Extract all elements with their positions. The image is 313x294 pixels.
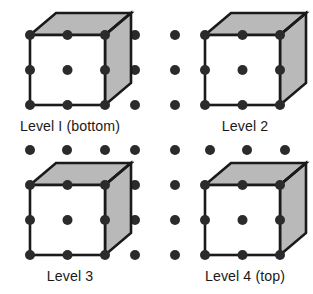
lattice-dot: [100, 180, 110, 190]
lattice-dot: [63, 250, 73, 260]
lattice-dot: [238, 65, 248, 75]
lattice-dot: [100, 215, 110, 225]
lattice-dot: [25, 65, 35, 75]
lattice-levels-figure: Level I (bottom)Level 2Level 3Level 4 (t…: [0, 0, 313, 294]
cube-panel-level-3: [25, 163, 131, 260]
panel-label-level-3: Level 3: [47, 268, 93, 284]
lattice-dot: [200, 65, 210, 75]
lattice-dot: [25, 30, 35, 40]
lattice-dot: [130, 250, 140, 260]
lattice-dot: [25, 250, 35, 260]
lattice-dot: [242, 145, 252, 155]
lattice-dot: [170, 145, 180, 155]
lattice-dot: [25, 145, 35, 155]
lattice-dot: [238, 180, 248, 190]
lattice-dot: [63, 215, 73, 225]
lattice-dot: [275, 65, 285, 75]
lattice-dot: [100, 100, 110, 110]
lattice-dot: [238, 30, 248, 40]
cube-panel-level-4: [200, 163, 306, 260]
lattice-dot: [130, 145, 140, 155]
lattice-dot: [205, 145, 215, 155]
lattice-dot: [200, 215, 210, 225]
lattice-dot: [100, 65, 110, 75]
lattice-dot: [170, 65, 180, 75]
lattice-dot: [25, 180, 35, 190]
lattice-dot: [62, 145, 72, 155]
lattice-dot: [238, 100, 248, 110]
lattice-dot: [170, 215, 180, 225]
lattice-dot: [275, 30, 285, 40]
cube-panel-level-2: [200, 13, 306, 110]
lattice-dot: [275, 100, 285, 110]
lattice-dot: [63, 65, 73, 75]
lattice-dot: [200, 30, 210, 40]
lattice-dot: [200, 180, 210, 190]
lattice-dot: [170, 30, 180, 40]
lattice-dot: [275, 250, 285, 260]
lattice-svg-canvas: Level I (bottom)Level 2Level 3Level 4 (t…: [0, 0, 313, 294]
lattice-dot: [280, 145, 290, 155]
lattice-dot: [63, 100, 73, 110]
cube-panel-level-1: [25, 13, 131, 110]
lattice-dot: [238, 250, 248, 260]
lattice-dot: [275, 215, 285, 225]
lattice-dot: [200, 250, 210, 260]
lattice-dot: [100, 30, 110, 40]
lattice-dot: [25, 100, 35, 110]
lattice-dot: [25, 215, 35, 225]
panel-label-level-4: Level 4 (top): [205, 268, 285, 284]
lattice-dot: [200, 100, 210, 110]
lattice-dot: [100, 250, 110, 260]
lattice-dot: [170, 250, 180, 260]
lattice-dot: [63, 30, 73, 40]
lattice-dot: [275, 180, 285, 190]
lattice-dot: [100, 145, 110, 155]
lattice-dot: [238, 215, 248, 225]
panel-label-level-1: Level I (bottom): [20, 118, 120, 134]
lattice-dot: [130, 100, 140, 110]
lattice-dot: [170, 180, 180, 190]
lattice-dot: [170, 100, 180, 110]
lattice-dot: [63, 180, 73, 190]
panel-label-level-2: Level 2: [222, 118, 268, 134]
